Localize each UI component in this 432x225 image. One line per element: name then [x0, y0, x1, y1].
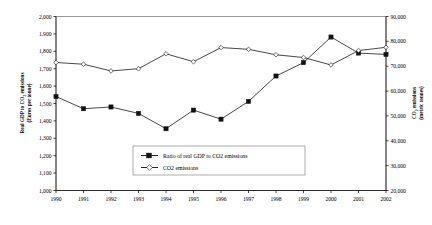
right-tick-label: 70,000: [391, 63, 407, 69]
x-tick-label: 1997: [243, 196, 254, 202]
left-tick-label: 1,300: [39, 135, 52, 141]
legend-box: [133, 146, 305, 175]
x-tick-label: 1995: [188, 196, 199, 202]
right-axis-title: CO2 emissions (metric tonnes): [411, 86, 425, 120]
legend-marker-gdp-ratio: [147, 153, 152, 158]
data-point-marker: [301, 61, 305, 65]
x-tick-label: 1999: [298, 196, 309, 202]
data-point-marker: [219, 117, 223, 121]
x-tick-label: 1993: [133, 196, 144, 202]
right-tick-label: 30,000: [391, 163, 407, 169]
chart-legend: Ratio of real GDP to CO2 emissions CO2 e…: [133, 146, 305, 175]
data-point-marker: [246, 99, 250, 103]
x-tick-label: 1994: [160, 196, 171, 202]
data-point-marker: [191, 108, 195, 112]
left-tick-label: 1,400: [39, 118, 52, 124]
data-point-marker: [384, 52, 388, 56]
x-tick-label: 2000: [325, 196, 336, 202]
chart-container: 1,0001,1001,2001,3001,4001,5001,6001,700…: [0, 0, 432, 225]
left-tick-label: 1,600: [39, 83, 52, 89]
left-tick-label: 1,100: [39, 170, 52, 176]
left-tick-label: 1,500: [39, 101, 52, 107]
left-tick-label: 1,000: [39, 188, 52, 194]
legend-label-gdp-ratio: Ratio of real GDP to CO2 emissions: [163, 153, 248, 159]
chart-background: [0, 0, 432, 225]
data-point-marker: [329, 35, 333, 39]
legend-label-co2: CO2 emissions: [163, 165, 199, 171]
dual-axis-line-chart: 1,0001,1001,2001,3001,4001,5001,6001,700…: [0, 0, 432, 225]
x-tick-label: 2002: [380, 196, 391, 202]
left-axis-title-line2: (Euros per tonne): [26, 83, 33, 122]
left-tick-label: 1,200: [39, 153, 52, 159]
right-tick-label: 90,000: [391, 14, 407, 20]
data-point-marker: [136, 111, 140, 115]
right-tick-label: 20,000: [391, 188, 407, 194]
x-tick-label: 2001: [353, 196, 364, 202]
x-tick-label: 1996: [215, 196, 226, 202]
right-axis-title-line2: (metric tonnes): [418, 86, 425, 120]
legend-entry-co2: CO2 emissions: [141, 165, 199, 171]
data-point-marker: [274, 74, 278, 78]
data-point-marker: [109, 105, 113, 109]
x-tick-label: 1992: [105, 196, 116, 202]
right-tick-label: 40,000: [391, 138, 407, 144]
x-tick-label: 1990: [50, 196, 61, 202]
data-point-marker: [164, 127, 168, 131]
right-tick-label: 50,000: [391, 113, 407, 119]
data-point-marker: [81, 107, 85, 111]
left-tick-label: 2,000: [39, 14, 52, 20]
left-tick-label: 1,900: [39, 31, 52, 37]
data-point-marker: [54, 94, 58, 98]
x-tick-label: 1998: [270, 196, 281, 202]
left-tick-label: 1,800: [39, 48, 52, 54]
x-tick-label: 1991: [78, 196, 89, 202]
right-tick-label: 60,000: [391, 88, 407, 94]
right-tick-label: 80,000: [391, 38, 407, 44]
left-tick-label: 1,700: [39, 66, 52, 72]
